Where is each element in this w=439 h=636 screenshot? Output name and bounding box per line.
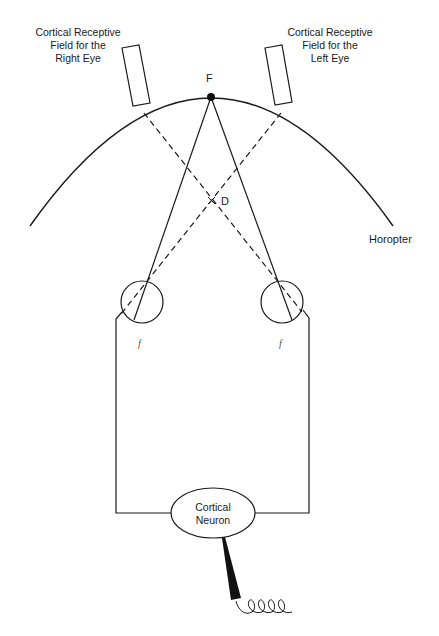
electrode-coil: [236, 600, 292, 613]
horopter-label: Horopter: [369, 233, 412, 246]
left-eye-field-label-line1: Cortical Receptive: [287, 26, 372, 39]
disparate-point-label: D: [221, 195, 229, 208]
right-eye-receptive-field: [122, 45, 150, 106]
disparity-line-left-field: [121, 113, 281, 314]
fovea-left-label: f: [138, 338, 141, 349]
left-eye-field-label-line3: Left Eye: [287, 52, 372, 65]
right-eye-field-label-line3: Right Eye: [35, 52, 120, 65]
fixation-line-left: [134, 97, 211, 320]
recording-electrode: [222, 537, 241, 600]
disparity-line-right-field: [144, 113, 302, 312]
right-eye-field-label: Cortical Receptive Field for the Right E…: [35, 26, 120, 65]
left-eye-field-label: Cortical Receptive Field for the Left Ey…: [287, 26, 372, 65]
fovea-right-label: f: [279, 338, 282, 349]
diagram-canvas: [0, 0, 439, 636]
neuron-label-line1: Cortical: [195, 501, 231, 514]
horopter-arc: [30, 98, 393, 226]
left-neural-pathway: [116, 312, 171, 513]
fixation-point-label: F: [206, 72, 213, 85]
right-neural-pathway: [255, 310, 309, 513]
cortical-neuron-label: Cortical Neuron: [195, 501, 231, 527]
fixation-point-dot: [207, 93, 215, 101]
right-eye-field-label-line2: Field for the: [35, 39, 120, 52]
fixation-line-right: [211, 97, 292, 320]
left-eye-field-label-line2: Field for the: [287, 39, 372, 52]
right-eye-field-label-line1: Cortical Receptive: [35, 26, 120, 39]
neuron-label-line2: Neuron: [195, 514, 231, 527]
